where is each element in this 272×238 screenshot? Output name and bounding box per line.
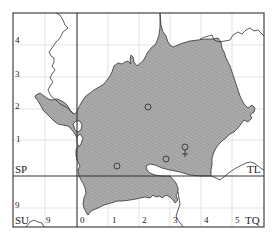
svg-text:SP: SP [15,163,27,175]
svg-text:3: 3 [173,215,178,225]
left-label-4: 4 [15,35,20,45]
grid-square-su: SU [15,214,29,226]
grid-square-sp: SP [15,163,27,175]
svg-text:9: 9 [46,215,51,225]
distribution-region [35,13,255,215]
bottom-label-3: 3 [173,215,178,225]
svg-text:4: 4 [204,215,209,225]
bottom-label-9: 9 [46,215,51,225]
svg-text:1: 1 [112,215,117,225]
bottom-label-4: 4 [204,215,209,225]
svg-text:1: 1 [16,134,21,144]
left-label-9: 9 [15,200,20,210]
svg-text:9: 9 [15,200,20,210]
svg-text:TL: TL [247,163,261,175]
left-label-3: 3 [15,69,20,79]
grid-square-tq: TQ [245,214,260,226]
bottom-label-1: 1 [112,215,117,225]
bottom-label-5: 5 [235,215,240,225]
svg-text:0: 0 [80,215,85,225]
svg-text:2: 2 [15,101,20,111]
grid-square-tl: TL [247,163,261,175]
distribution-map: 4 3 2 1 9 9 0 1 2 3 4 5 SP TL SU TQ [0,0,272,238]
svg-text:2: 2 [142,215,147,225]
bottom-label-2: 2 [142,215,147,225]
left-label-1: 1 [16,134,21,144]
svg-text:3: 3 [15,69,20,79]
svg-text:SU: SU [15,214,29,226]
left-label-2: 2 [15,101,20,111]
svg-text:TQ: TQ [245,214,260,226]
svg-text:4: 4 [15,35,20,45]
svg-text:5: 5 [235,215,240,225]
bottom-label-0: 0 [80,215,85,225]
